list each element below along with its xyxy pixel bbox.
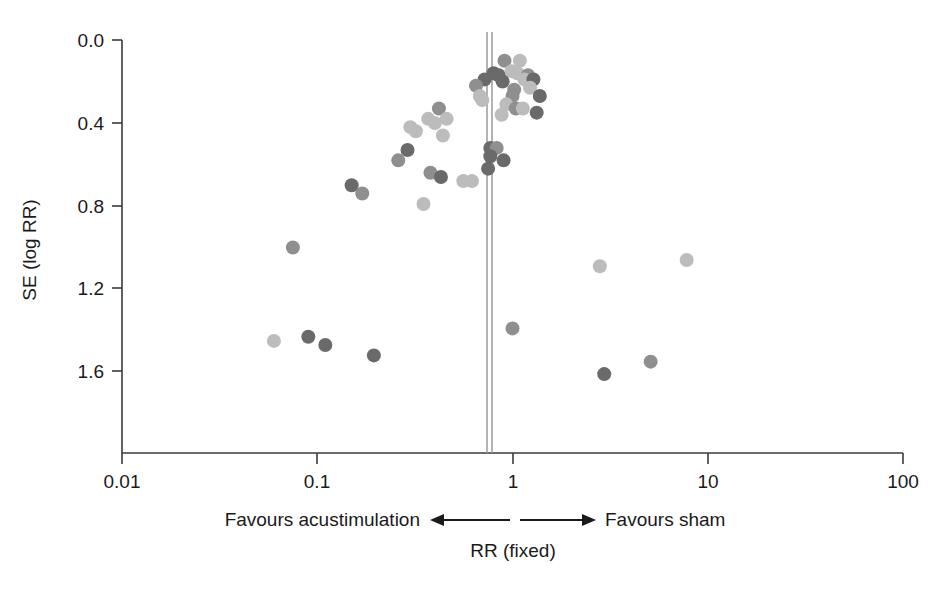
x-tick-label-3: 10: [697, 471, 718, 492]
y-tick-label-3: 1.2: [78, 278, 104, 299]
data-point: [533, 89, 547, 103]
data-point: [483, 149, 497, 163]
x-tick-label-2: 1: [508, 471, 519, 492]
data-point: [416, 197, 430, 211]
data-point: [644, 355, 658, 369]
data-point: [506, 321, 520, 335]
favours-left-label: Favours acustimulation: [225, 509, 420, 530]
data-point: [409, 124, 423, 138]
y-tick-label-2: 0.8: [78, 196, 104, 217]
data-point: [475, 93, 489, 107]
data-point: [597, 367, 611, 381]
y-tick-label-1: 0.4: [78, 113, 105, 134]
data-point: [680, 253, 694, 267]
x-tick-label-4: 100: [887, 471, 919, 492]
x-tick-label-0: 0.01: [104, 471, 141, 492]
favours-right-label: Favours sham: [605, 509, 725, 530]
data-point: [286, 241, 300, 255]
data-point: [481, 162, 495, 176]
x-tick-label-1: 0.1: [304, 471, 330, 492]
data-point: [434, 170, 448, 184]
funnel-plot-figure: 0.0 0.4 0.8 1.2 1.6 0.01 0.1 1 10 100: [0, 0, 946, 590]
data-point: [391, 153, 405, 167]
y-tick-label-0: 0.0: [78, 30, 104, 51]
data-point: [465, 174, 479, 188]
data-point: [267, 334, 281, 348]
data-point: [497, 153, 511, 167]
funnel-plot-svg: 0.0 0.4 0.8 1.2 1.6 0.01 0.1 1 10 100: [0, 0, 946, 590]
data-point: [593, 259, 607, 273]
data-point: [367, 348, 381, 362]
y-tick-label-4: 1.6: [78, 361, 104, 382]
data-point: [436, 128, 450, 142]
y-axis-title: SE (log RR): [19, 199, 40, 300]
data-point: [496, 75, 510, 89]
data-point: [516, 101, 530, 115]
data-point: [355, 187, 369, 201]
data-point: [530, 106, 544, 120]
x-axis-title: RR (fixed): [470, 540, 556, 561]
data-point: [301, 330, 315, 344]
data-point: [495, 108, 509, 122]
data-point: [428, 116, 442, 130]
data-point: [318, 338, 332, 352]
